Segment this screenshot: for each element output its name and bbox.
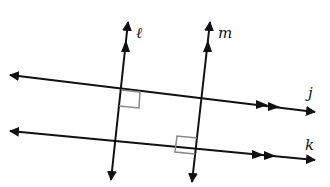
- parallel-mark-icon: [268, 102, 280, 111]
- line-l: [111, 22, 130, 180]
- label-k: k: [305, 136, 314, 154]
- parallel-mark-icon: [121, 40, 130, 52]
- right-angle-mark-m-k: [175, 136, 197, 154]
- parallel-lines-diagram: ℓ m j k: [0, 0, 330, 187]
- line-j: [10, 75, 315, 112]
- label-j: j: [305, 84, 313, 102]
- parallel-mark-icon: [256, 100, 268, 109]
- right-angle-mark-l-j: [119, 90, 140, 108]
- line-k: [10, 131, 315, 160]
- line-m: [192, 22, 212, 182]
- label-l: ℓ: [136, 24, 142, 42]
- parallel-mark-icon: [264, 151, 276, 160]
- parallel-mark-icon: [203, 40, 212, 52]
- label-m: m: [218, 24, 232, 42]
- parallel-mark-icon: [252, 150, 264, 159]
